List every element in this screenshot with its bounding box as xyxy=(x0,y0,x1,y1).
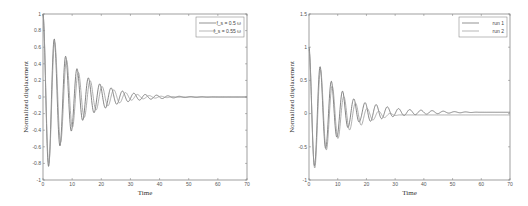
right-xlabel: Time xyxy=(402,189,417,197)
left-legend-label: f_s = 0.55 ω xyxy=(214,28,241,34)
left-ytick: 1 xyxy=(38,11,41,17)
right-xtick: 60 xyxy=(479,181,485,187)
left-xtick: 60 xyxy=(215,181,221,187)
left-xtick: 0 xyxy=(42,181,45,187)
right-xtick: 50 xyxy=(450,181,456,187)
left-chart: 010203040506070-1-0.8-0.6-0.4-0.200.20.4… xyxy=(0,0,264,206)
right-ytick: -0.5 xyxy=(298,144,307,150)
left-xtick: 70 xyxy=(244,181,250,187)
left-xtick: 40 xyxy=(157,181,163,187)
right-legend-label: run 2 xyxy=(493,28,505,34)
right-ylabel: Normalized displacement xyxy=(288,61,296,133)
left-ytick: 0.4 xyxy=(34,61,41,67)
left-xtick: 50 xyxy=(186,181,192,187)
right-ytick: 1 xyxy=(304,44,307,50)
right-xtick: 70 xyxy=(507,181,513,187)
right-ytick: 0.5 xyxy=(300,77,307,83)
right-chart-plot: 010203040506070-1-0.500.511.5TimeNormali… xyxy=(264,0,528,206)
left-xtick: 10 xyxy=(69,181,75,187)
left-ytick: 0.6 xyxy=(34,44,41,50)
right-xtick: 10 xyxy=(335,181,341,187)
left-chart-plot: 010203040506070-1-0.8-0.6-0.4-0.200.20.4… xyxy=(0,0,264,206)
left-xtick: 30 xyxy=(128,181,134,187)
left-ytick: -1 xyxy=(37,177,42,183)
left-xtick: 20 xyxy=(99,181,105,187)
left-ytick: 0.2 xyxy=(34,77,41,83)
right-legend-label: run 1 xyxy=(493,20,505,26)
left-ytick: -0.6 xyxy=(32,144,41,150)
right-ytick: -1 xyxy=(303,177,308,183)
right-ytick: 1.5 xyxy=(300,11,307,17)
left-ylabel: Normalized displacement xyxy=(22,61,30,133)
right-xtick: 30 xyxy=(392,181,398,187)
right-xtick: 40 xyxy=(421,181,427,187)
right-axes-box xyxy=(309,14,510,180)
left-ytick: 0.8 xyxy=(34,27,41,33)
left-legend-label: f_s = 0.5 ω xyxy=(216,20,241,26)
right-xtick: 0 xyxy=(308,181,311,187)
right-ytick: 0 xyxy=(304,110,307,116)
right-chart: 010203040506070-1-0.500.511.5TimeNormali… xyxy=(264,0,528,206)
left-ytick: -0.4 xyxy=(32,127,41,133)
left-xlabel: Time xyxy=(138,189,153,197)
right-xtick: 20 xyxy=(364,181,370,187)
left-ytick: 0 xyxy=(38,94,41,100)
left-ytick: -0.8 xyxy=(32,160,41,166)
left-ytick: -0.2 xyxy=(32,110,41,116)
